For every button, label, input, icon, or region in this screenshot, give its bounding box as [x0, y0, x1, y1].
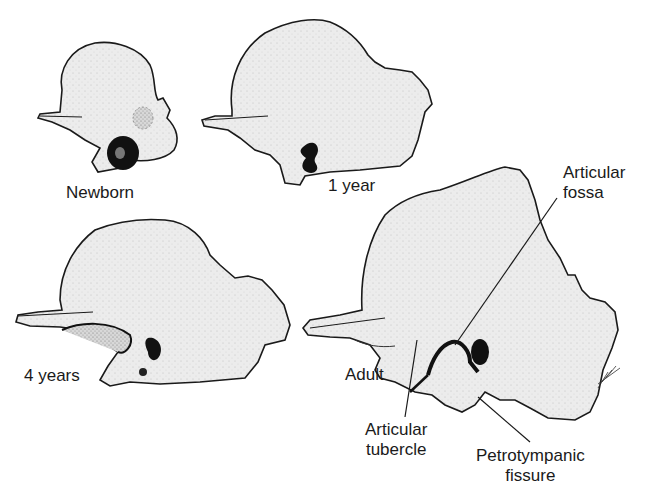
stage-label-four-years: 4 years	[24, 366, 80, 386]
temporal-bone-development-figure	[0, 0, 645, 492]
stage-label-one-year: 1 year	[328, 176, 375, 196]
annotation-petrotympanic-fissure: Petrotympanic fissure	[476, 446, 585, 486]
annotation-articular-fossa-line1: Articular	[563, 163, 625, 183]
four-years-temporal-bone	[16, 219, 290, 386]
stage-label-adult: Adult	[345, 365, 384, 385]
annotation-articular-tubercle-line1: Articular	[365, 420, 427, 440]
stage-label-newborn: Newborn	[66, 183, 134, 203]
annotation-articular-tubercle: Articular tubercle	[365, 420, 427, 460]
newborn-temporal-bone	[38, 42, 177, 172]
annotation-articular-tubercle-line2: tubercle	[365, 440, 427, 460]
annotation-petrotympanic-fissure-line1: Petrotympanic	[476, 446, 585, 466]
annotation-articular-fossa-line2: fossa	[563, 183, 625, 203]
one-year-temporal-bone	[202, 20, 432, 185]
annotation-articular-fossa: Articular fossa	[563, 163, 625, 203]
annotation-petrotympanic-fissure-line2: fissure	[476, 466, 585, 486]
